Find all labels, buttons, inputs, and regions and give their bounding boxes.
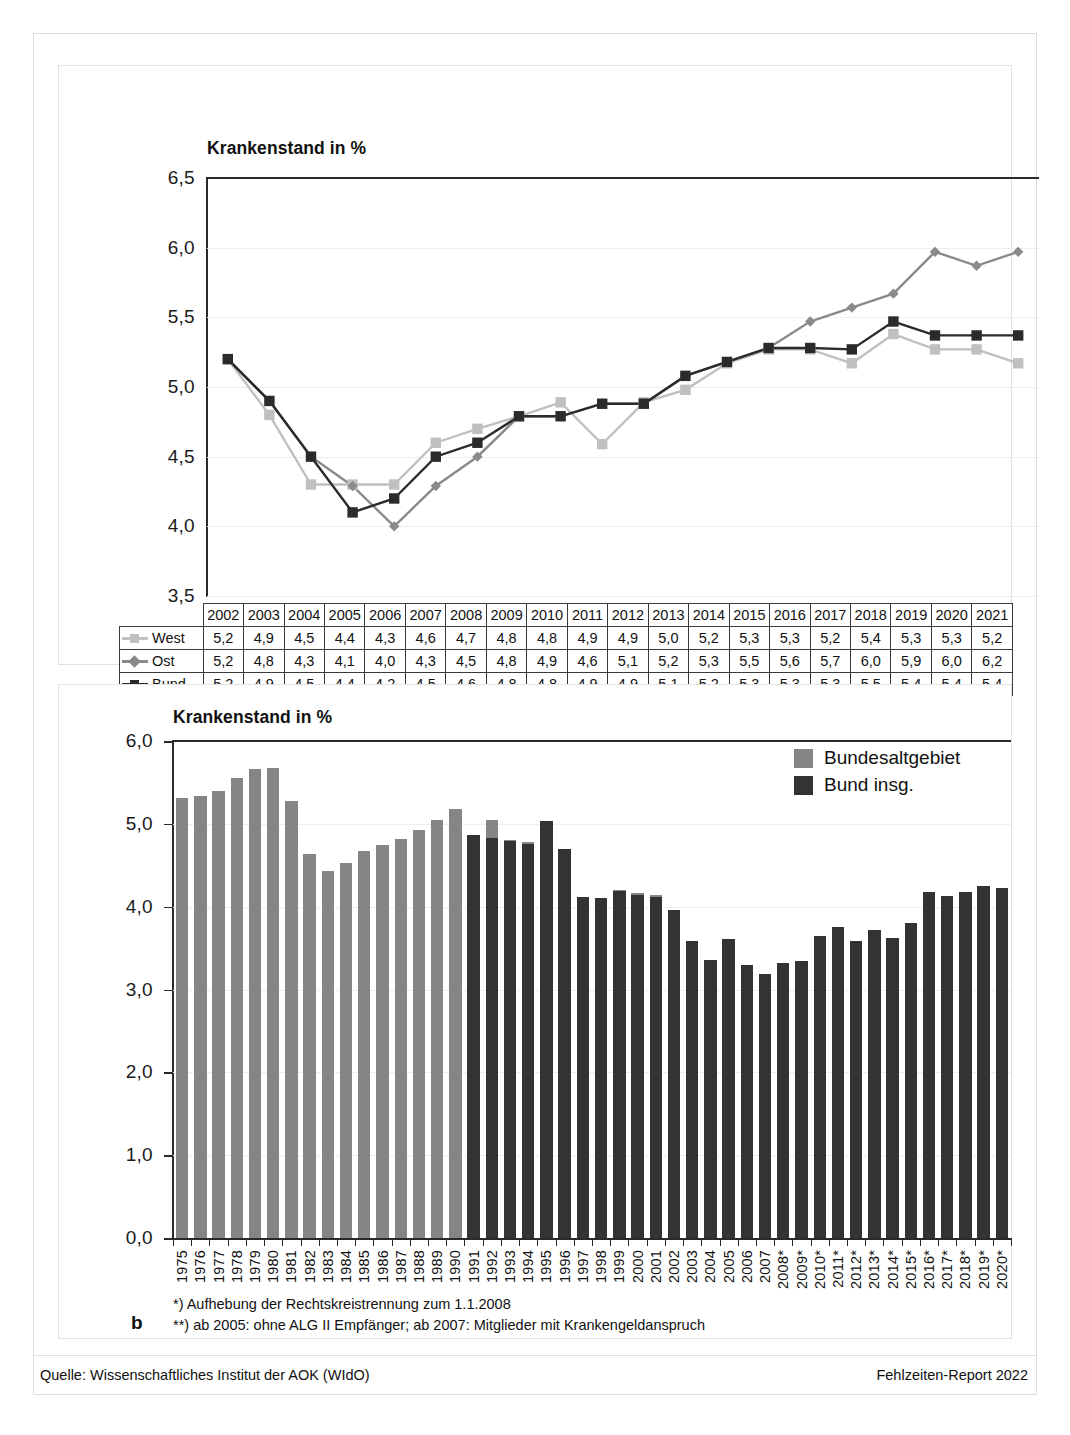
x-axis-tick (774, 1238, 775, 1246)
x-axis-tick (902, 1238, 903, 1246)
panel-a-data-table: 2002200320042005200620072008200920102011… (119, 603, 1013, 696)
y-axis-tick-label: 5,0 (135, 376, 195, 398)
table-row: West5,24,94,54,44,34,64,74,84,84,94,95,0… (120, 627, 1013, 650)
x-axis-tick-label: 1994 (520, 1250, 536, 1283)
table-header-cell: 2019 (891, 604, 931, 627)
x-axis-tick (319, 1238, 320, 1246)
x-axis-tick-label: 2000 (630, 1250, 646, 1283)
panel-b-footnote-1: *) Aufhebung der Rechtskreistrennung zum… (173, 1296, 511, 1312)
x-axis-tick-label: 1995 (538, 1250, 554, 1283)
x-axis-tick-label: 1985 (356, 1250, 372, 1283)
marker-square (472, 438, 482, 448)
table-header-cell: 2008 (446, 604, 486, 627)
marker-square (680, 371, 690, 381)
table-row: Ost5,24,84,34,14,04,34,54,84,94,65,15,25… (120, 650, 1013, 673)
bar (941, 896, 953, 1238)
x-axis-tick-label: 1998 (593, 1250, 609, 1283)
x-axis-tick (883, 1238, 884, 1246)
x-axis-tick (537, 1238, 538, 1246)
marker-square (971, 344, 981, 354)
table-cell: 5,2 (648, 650, 688, 673)
table-cell: 5,3 (689, 650, 729, 673)
marker-square (472, 424, 482, 434)
table-cell: 4,0 (365, 650, 405, 673)
table-cell: 5,2 (972, 627, 1013, 650)
x-axis-tick (956, 1238, 957, 1246)
bar (886, 938, 898, 1238)
table-cell: 5,3 (770, 627, 810, 650)
x-axis-tick-label: 1975 (174, 1250, 190, 1283)
x-axis-tick-label: 2017* (939, 1250, 955, 1289)
bar (613, 891, 625, 1238)
panel-b-footnote-2: **) ab 2005: ohne ALG II Empfänger; ab 2… (173, 1317, 705, 1333)
x-axis-tick-label: 2003 (684, 1250, 700, 1283)
bar (832, 927, 844, 1238)
table-cell: 5,4 (851, 627, 891, 650)
y-axis-tick-label: 4,5 (135, 446, 195, 468)
y-axis-tick (164, 1155, 173, 1157)
bar (795, 961, 807, 1238)
series-name: Ost (152, 654, 175, 670)
table-cell: 5,0 (648, 627, 688, 650)
bar (777, 963, 789, 1238)
table-header-cell: 2004 (284, 604, 324, 627)
bar (449, 809, 461, 1238)
bar (395, 839, 407, 1238)
marker-square (264, 410, 274, 420)
x-axis-tick (938, 1238, 939, 1246)
x-axis-tick (501, 1238, 502, 1246)
y-axis-tick (164, 1072, 173, 1074)
table-cell: 5,7 (810, 650, 850, 673)
x-axis-tick (738, 1238, 739, 1246)
x-axis-tick (428, 1238, 429, 1246)
marker-square (264, 396, 274, 406)
table-cell: 6,2 (972, 650, 1013, 673)
x-axis-tick-label: 1981 (283, 1250, 299, 1283)
table-header-cell: 2013 (648, 604, 688, 627)
y-axis-tick-label: 1,0 (93, 1144, 153, 1166)
x-axis-tick (592, 1238, 593, 1246)
y-axis-tick-label: 6,0 (135, 237, 195, 259)
bar (303, 854, 315, 1238)
table-cell: 4,9 (608, 627, 648, 650)
table-cell: 5,3 (931, 627, 971, 650)
table-series-label-ost: Ost (120, 650, 204, 673)
x-axis-tick (647, 1238, 648, 1246)
table-series-label-west: West (120, 627, 204, 650)
marker-square (306, 451, 316, 461)
y-axis-tick-label: 3,0 (93, 979, 153, 1001)
x-axis-tick (264, 1238, 265, 1246)
table-header-cell: 2018 (851, 604, 891, 627)
bar (850, 941, 862, 1238)
x-axis-tick-label: 2011* (830, 1250, 846, 1288)
x-axis-tick (792, 1238, 793, 1246)
y-axis-tick (164, 741, 173, 743)
marker-square (971, 330, 981, 340)
table-cell: 4,9 (527, 650, 567, 673)
marker-square (431, 451, 441, 461)
table-cell: 4,7 (446, 627, 486, 650)
x-axis-tick (483, 1238, 484, 1246)
marker-square (347, 507, 357, 517)
series-name: West (152, 631, 185, 647)
bar (413, 830, 425, 1238)
x-axis-tick-label: 2002 (666, 1250, 682, 1283)
table-cell: 5,2 (203, 650, 243, 673)
bar (996, 888, 1008, 1238)
marker-square (722, 357, 732, 367)
x-axis-tick-label: 1988 (411, 1250, 427, 1283)
bar (650, 897, 662, 1238)
bar (759, 974, 771, 1238)
marker-square (847, 344, 857, 354)
source-bar: Quelle: Wissenschaftliches Institut der … (34, 1355, 1036, 1396)
marker-square (680, 385, 690, 395)
marker-diamond (847, 302, 857, 312)
x-axis-tick (556, 1238, 557, 1246)
line-chart-area: Krankenstand in % 3,54,04,55,05,56,06,5 … (59, 66, 1013, 666)
x-axis-tick (209, 1238, 210, 1246)
plot-b-bars (173, 741, 1011, 1238)
table-header-cell: 2014 (689, 604, 729, 627)
bar (431, 820, 443, 1238)
marker-square (1013, 330, 1023, 340)
x-axis-tick-label: 1992 (484, 1250, 500, 1283)
